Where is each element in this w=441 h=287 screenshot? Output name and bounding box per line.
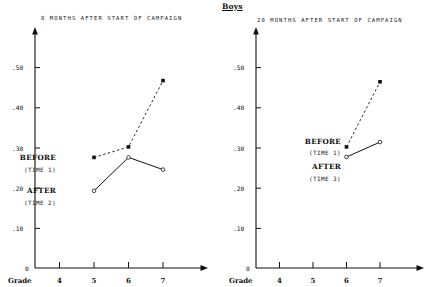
- y-tick-label-zero-right: 0: [246, 265, 250, 272]
- panel-8-months: 8 MONTHS AFTER START OF CAMPAIGN .50 .40: [0, 0, 220, 287]
- annotation-after-sub-right: (TIME 3): [309, 175, 341, 182]
- y-tick-label-40-right: .40: [233, 104, 244, 111]
- y-tick-label-10-right: .10: [233, 225, 244, 232]
- chart-left: .50 .40 .30 .20 .10 0 Grade 4 5 6 7: [0, 0, 220, 287]
- y-tick-label-50: .50: [12, 64, 23, 71]
- y-tick-label-zero: 0: [25, 265, 29, 272]
- annotation-before-sub-right: (TIME 1): [309, 149, 341, 156]
- x-tick-label-5: 5: [92, 276, 97, 285]
- series-before-left: [92, 79, 165, 159]
- annotation-before-label-left: BEFORE: [20, 153, 56, 162]
- annotation-after-label-left: AFTER: [26, 186, 57, 195]
- y-tick-label-10: .10: [12, 225, 23, 232]
- y-tick-label-20: .20: [12, 185, 23, 192]
- x-tick-label-5-right: 5: [311, 276, 316, 285]
- y-tick-label-50-right: .50: [233, 64, 244, 71]
- x-tick-label-7: 7: [161, 276, 166, 285]
- x-ticks-left: [60, 262, 164, 268]
- x-tick-label-4: 4: [57, 276, 62, 285]
- y-ticks-right: [256, 68, 261, 229]
- series-after-left: [92, 156, 165, 193]
- x-axis-right: [256, 265, 424, 271]
- annotation-before-sub-left: (TIME 1): [24, 166, 56, 173]
- chart-right: .50 .40 .30 .20 .10 0 Grade 4 5 6 7: [221, 0, 441, 287]
- panel-20-months: 20 MONTHS AFTER START OF CAMPAIGN .50 .4…: [221, 0, 441, 287]
- y-tick-label-30: .30: [12, 145, 23, 152]
- x-tick-label-7-right: 7: [378, 276, 383, 285]
- annotation-before-label-right: BEFORE: [305, 137, 341, 146]
- y-tick-label-30-right: .30: [233, 145, 244, 152]
- x-ticks-right: [280, 262, 381, 268]
- annotation-after-sub-left: (TIME 2): [24, 199, 56, 206]
- series-before-right: [345, 80, 382, 149]
- x-axis-name-right: Grade: [229, 276, 253, 285]
- x-tick-label-4-right: 4: [277, 276, 282, 285]
- x-tick-label-6: 6: [126, 276, 131, 285]
- y-tick-label-40: .40: [12, 104, 23, 111]
- x-axis-name-left: Grade: [8, 276, 32, 285]
- x-axis-left: [35, 265, 208, 271]
- figure-container: Boys 8 MONTHS AFTER START OF CAMPAIGN .5: [0, 0, 441, 287]
- y-tick-label-20-right: .20: [233, 185, 244, 192]
- annotation-after-label-right: AFTER: [311, 162, 342, 171]
- series-after-right: [345, 140, 382, 159]
- x-tick-label-6-right: 6: [344, 276, 349, 285]
